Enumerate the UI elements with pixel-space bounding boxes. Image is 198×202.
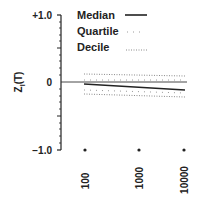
y-axis: +1.0 0 −1.0 ZI(T) [13, 10, 61, 156]
legend-label-median: Median [77, 9, 115, 21]
legend-label-decile: Decile [77, 41, 109, 53]
upper-decile-line [84, 74, 185, 76]
x-axis: 100 1000 10000 [80, 148, 190, 194]
x-tick-marker-100 [83, 148, 86, 151]
lower-decile-line [84, 94, 185, 97]
x-tick-marker-1000 [137, 148, 140, 151]
y-tick-label-zero: 0 [46, 77, 52, 88]
median-line [84, 84, 185, 90]
svg-text:ZI(T): ZI(T) [13, 72, 26, 93]
x-tick-label-100: 100 [80, 172, 91, 189]
x-tick-label-1000: 1000 [134, 166, 145, 189]
y-tick-label-top: +1.0 [32, 10, 52, 21]
x-tick-label-10000: 10000 [179, 166, 190, 194]
chart: +1.0 0 −1.0 ZI(T) Median Quartile Decile… [0, 0, 198, 202]
y-tick-label-bottom: −1.0 [32, 145, 52, 156]
legend: Median Quartile Decile [77, 9, 148, 53]
y-axis-label-arg: (T) [13, 72, 24, 85]
x-tick-marker-10000 [182, 148, 185, 151]
y-axis-label: ZI(T) [13, 72, 26, 93]
lower-quartile-line [84, 90, 185, 93]
legend-label-quartile: Quartile [77, 25, 119, 37]
